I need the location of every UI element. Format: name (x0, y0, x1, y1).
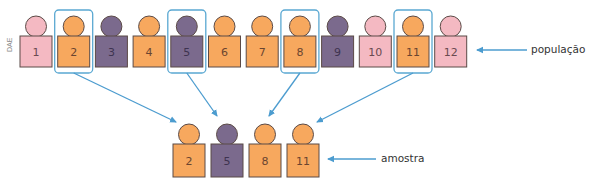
person-number: 7 (259, 46, 266, 59)
sample-individual-2: 2 (173, 124, 205, 177)
population-individual-2: 2 (58, 16, 90, 67)
population-individual-6: 6 (209, 16, 241, 67)
person-number: 2 (186, 155, 193, 168)
selection-arrows (74, 73, 413, 122)
person-head-icon (365, 16, 386, 37)
person-head-icon (289, 16, 310, 37)
population-individual-3: 3 (95, 16, 127, 67)
person-head-icon (293, 124, 314, 145)
person-head-icon (440, 16, 461, 37)
population-label: população (531, 43, 585, 55)
person-number: 12 (444, 46, 458, 59)
person-head-icon (63, 16, 84, 37)
person-head-icon (217, 124, 238, 145)
sample-row: 25811 (173, 124, 319, 177)
sample-individual-8: 8 (249, 124, 281, 177)
selection-arrow-icon (269, 73, 300, 116)
population-individual-5: 5 (171, 16, 203, 67)
person-number: 9 (334, 46, 341, 59)
person-number: 6 (221, 46, 228, 59)
person-number: 11 (296, 155, 310, 168)
sampling-diagram: DAE 123456789101112 25811 população amos… (0, 0, 590, 181)
population-individual-4: 4 (133, 16, 165, 67)
person-number: 4 (146, 46, 153, 59)
selection-arrow-icon (74, 73, 176, 122)
population-individual-1: 1 (20, 16, 52, 67)
person-head-icon (255, 124, 276, 145)
sample-label: amostra (381, 152, 424, 164)
population-individual-9: 9 (322, 16, 354, 67)
selection-arrow-icon (187, 73, 217, 116)
person-number: 2 (70, 46, 77, 59)
person-head-icon (403, 16, 424, 37)
person-head-icon (327, 16, 348, 37)
sample-individual-5: 5 (211, 124, 243, 177)
person-number: 8 (296, 46, 303, 59)
person-number: 11 (406, 46, 420, 59)
person-head-icon (179, 124, 200, 145)
person-head-icon (214, 16, 235, 37)
population-individual-7: 7 (246, 16, 278, 67)
person-number: 3 (108, 46, 115, 59)
person-number: 1 (33, 46, 40, 59)
person-number: 5 (183, 46, 190, 59)
selection-arrow-icon (317, 73, 413, 122)
person-head-icon (26, 16, 47, 37)
population-individual-12: 12 (435, 16, 467, 67)
person-number: 10 (368, 46, 382, 59)
population-individual-10: 10 (359, 16, 391, 67)
population-row: 123456789101112 (20, 16, 467, 67)
person-head-icon (176, 16, 197, 37)
person-head-icon (101, 16, 122, 37)
dae-watermark: DAE (6, 37, 13, 52)
person-number: 5 (224, 155, 231, 168)
person-head-icon (139, 16, 160, 37)
person-number: 8 (262, 155, 269, 168)
sample-individual-11: 11 (287, 124, 319, 177)
population-individual-11: 11 (397, 16, 429, 67)
person-head-icon (252, 16, 273, 37)
population-individual-8: 8 (284, 16, 316, 67)
